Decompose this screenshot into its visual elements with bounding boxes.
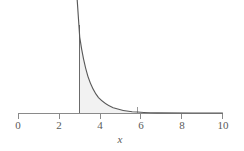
x-tick-label-8: 8 <box>170 119 194 131</box>
x-tick-label-10: 10 <box>211 119 235 131</box>
x-tick-label-4: 4 <box>88 119 112 131</box>
x-tick-label-0: 0 <box>6 119 30 131</box>
exponential-decay-chart: 0 2 4 6 8 10 x <box>0 0 244 151</box>
x-tick-label-6: 6 <box>129 119 153 131</box>
x-axis-title: x <box>105 133 135 145</box>
decay-curve <box>77 0 222 113</box>
plot-area <box>0 0 244 151</box>
x-tick-label-2: 2 <box>47 119 71 131</box>
shaded-area-under-curve <box>80 37 223 113</box>
